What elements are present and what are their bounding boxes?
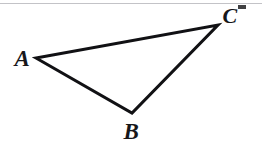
geometry-figure: A B C [0, 0, 262, 147]
vertex-label-b: B [124, 120, 139, 143]
triangle-outline [36, 25, 218, 113]
vertex-label-c: C [223, 5, 238, 27]
vertex-label-a: A [15, 47, 30, 70]
